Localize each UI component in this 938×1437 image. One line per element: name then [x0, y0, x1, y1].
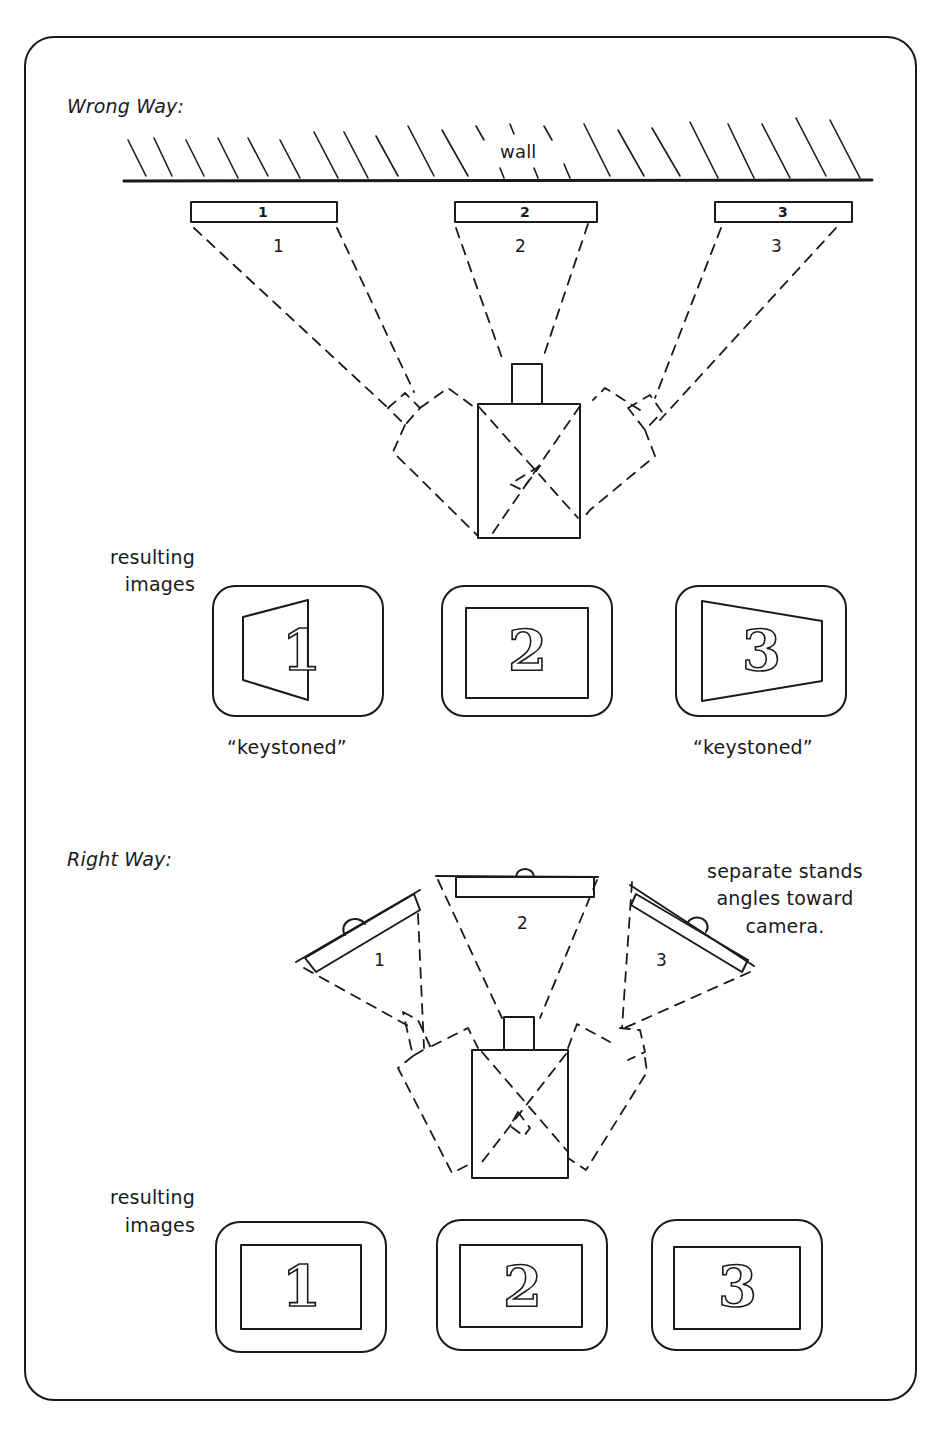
wrong-result-caption-3: “keystoned” [693, 738, 813, 757]
right-results-label-line1: resulting [95, 1188, 195, 1207]
wrong-results-label-line1: resulting [95, 548, 195, 567]
right-result-digit-3: 3 [718, 1258, 757, 1314]
wrong-field-label-3: 3 [771, 238, 782, 255]
wall-card-2-face: 2 [520, 204, 530, 220]
wrong-way-heading: Wrong Way: [67, 97, 184, 116]
right-note-line2: angles toward [690, 889, 880, 908]
right-result-digit-2: 2 [503, 1258, 542, 1314]
wrong-result-digit-2: 2 [508, 622, 547, 678]
wrong-results-label-line2: images [95, 575, 195, 594]
right-results-label-line2: images [95, 1216, 195, 1235]
right-field-label-3: 3 [656, 952, 667, 969]
right-field-label-1: 1 [374, 952, 385, 969]
wrong-field-label-1: 1 [273, 238, 284, 255]
right-way-heading: Right Way: [67, 850, 172, 869]
wrong-result-digit-3: 3 [742, 622, 781, 678]
wall-label: wall [500, 143, 537, 161]
wall-card-3-face: 3 [778, 204, 788, 220]
wall [124, 118, 872, 181]
wrong-field-label-2: 2 [515, 238, 526, 255]
wrong-result-digit-1: 1 [282, 622, 321, 678]
wrong-view-cones [194, 224, 836, 537]
right-result-digit-1: 1 [282, 1258, 321, 1314]
right-field-label-2: 2 [517, 915, 528, 932]
wrong-result-caption-1: “keystoned” [227, 738, 347, 757]
right-note-line3: camera. [690, 917, 880, 936]
wrong-camera [478, 364, 580, 538]
wall-card-1-face: 1 [258, 204, 268, 220]
right-note-line1: separate stands [690, 862, 880, 881]
